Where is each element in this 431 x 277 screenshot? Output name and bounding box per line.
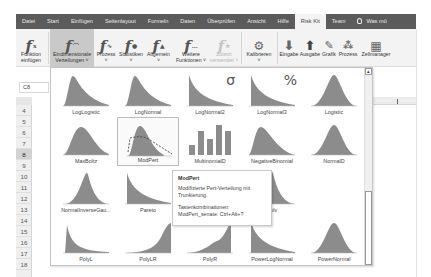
tab-team[interactable]: Team bbox=[326, 14, 352, 29]
tab-ansicht[interactable]: Ansicht bbox=[241, 14, 271, 29]
row-header-5[interactable]: 5 bbox=[16, 116, 32, 127]
row-header-18[interactable]: 18 bbox=[16, 259, 32, 270]
row-header-12[interactable]: 12 bbox=[16, 193, 32, 204]
gallery-item-label: NormalD bbox=[303, 158, 365, 164]
label: Ausgabe bbox=[299, 51, 321, 57]
funktion-einfuegen-button[interactable]: fx Funktion einfügen bbox=[16, 29, 46, 67]
eingabe-button[interactable]: ⬇ Eingabe bbox=[279, 29, 299, 67]
gallery-item-normalinversegau[interactable]: NormalInverseGau... bbox=[55, 166, 117, 215]
excel-window: Datei Start Einfügen Seitenlayout Formel… bbox=[0, 0, 431, 277]
prozess-function-button[interactable]: f∿ Prozess ˅ bbox=[95, 29, 117, 67]
divider bbox=[277, 32, 278, 64]
row-header-16[interactable]: 16 bbox=[16, 237, 32, 248]
parameter-glyph-icon: σ bbox=[226, 72, 235, 88]
distribution-function-icon: f⌒ bbox=[50, 29, 94, 49]
gallery-item-polyl[interactable]: PolyL bbox=[55, 215, 117, 264]
distribution-thumbnail-icon bbox=[123, 219, 173, 255]
row-header-6[interactable]: 6 bbox=[16, 127, 32, 138]
grafik-button[interactable]: ✎ Grafik bbox=[321, 29, 337, 67]
tab-daten[interactable]: Daten bbox=[174, 14, 201, 29]
distribution-thumbnail-icon bbox=[124, 122, 174, 158]
row-header-15[interactable]: 15 bbox=[16, 226, 32, 237]
tooltip-modpert: ModPert Modifizierte Pert-Verteilung mit… bbox=[172, 170, 272, 226]
row-header-10[interactable]: 10 bbox=[16, 171, 32, 182]
gallery-item-maxboltz[interactable]: MaxBoltz bbox=[55, 117, 117, 166]
column-header-strip bbox=[372, 97, 416, 105]
row-header-14[interactable]: 14 bbox=[16, 215, 32, 226]
label: Prozess bbox=[337, 51, 359, 57]
gallery-item-logistic[interactable]: Logistic bbox=[303, 68, 365, 117]
distribution-thumbnail-icon bbox=[247, 121, 297, 157]
gallery-item-label: PowerNormal bbox=[303, 256, 365, 262]
allgemein-button[interactable]: f▲ Allgemein ˅ bbox=[145, 29, 172, 67]
gallery-item-pareto[interactable]: Pareto bbox=[117, 166, 179, 215]
ribbon-tab-bar: Datei Start Einfügen Seitenlayout Formel… bbox=[16, 14, 416, 29]
gallery-item-label: PowerLogNormal bbox=[241, 256, 303, 262]
gallery-item-normald[interactable]: NormalD bbox=[303, 117, 365, 166]
row-header-7[interactable]: 7 bbox=[16, 138, 32, 149]
process-function-icon: f∿ bbox=[95, 29, 117, 49]
tab-start[interactable]: Start bbox=[41, 14, 65, 29]
row-header-13[interactable]: 13 bbox=[16, 204, 32, 215]
select-all-corner[interactable] bbox=[16, 97, 32, 105]
statistiken-button[interactable]: f● Statistiken ˅ bbox=[117, 29, 145, 67]
label: Zellmanager bbox=[359, 51, 393, 57]
eindimensionale-verteilungen-button[interactable]: f⌒ Eindimensionale Verteilungen ˅ bbox=[50, 29, 94, 67]
zuletzt-verwendet-button[interactable]: f★ Zuletzt verwendet ˅ bbox=[209, 29, 239, 67]
gallery-item-negativebinomial[interactable]: NegativeBinomial bbox=[241, 117, 303, 166]
gallery-item-modpert[interactable]: ModPert bbox=[117, 117, 179, 166]
gallery-item-empty bbox=[303, 166, 365, 215]
distribution-thumbnail-icon bbox=[309, 72, 359, 108]
gallery-item-label: PolyLR bbox=[117, 256, 179, 262]
tab-hilfe[interactable]: Hilfe bbox=[272, 14, 295, 29]
label: ˅ bbox=[244, 57, 274, 63]
parameter-glyph-icon: % bbox=[284, 72, 297, 88]
tab-risk-kit[interactable]: Risk Kit bbox=[295, 14, 326, 29]
column-divider bbox=[397, 99, 398, 104]
label: Funktionen ˅ bbox=[174, 57, 208, 63]
gallery-item-label: MaxBoltz bbox=[55, 158, 117, 164]
gallery-item-lognormal3[interactable]: %LogNormal3 bbox=[241, 68, 303, 117]
tab-einfuegen[interactable]: Einfügen bbox=[65, 14, 99, 29]
distribution-thumbnail-icon bbox=[61, 170, 111, 206]
label: Eingabe bbox=[279, 51, 299, 57]
gallery-scrollbar[interactable]: ▴ bbox=[364, 68, 372, 265]
gallery-item-powernormal[interactable]: PowerNormal bbox=[303, 215, 365, 264]
name-box[interactable]: C8 bbox=[19, 82, 49, 93]
tab-formeln[interactable]: Formeln bbox=[142, 14, 175, 29]
general-function-icon: f▲ bbox=[145, 29, 172, 49]
divider bbox=[48, 32, 49, 64]
distribution-thumbnail-icon bbox=[61, 121, 111, 157]
zellmanager-button[interactable]: ▦ Zellmanager bbox=[359, 29, 393, 67]
tooltip-shortcut: ModPert_senate: Ctrl+Alt+? bbox=[178, 211, 266, 218]
scroll-up-button[interactable]: ▴ bbox=[365, 68, 372, 75]
gallery-item-label: NegativeBinomial bbox=[241, 158, 303, 164]
tab-datei[interactable]: Datei bbox=[16, 14, 41, 29]
label: verwendet ˅ bbox=[209, 57, 239, 63]
gallery-item-loglogistic[interactable]: LogLogistic bbox=[55, 68, 117, 117]
statistics-icon: f● bbox=[117, 29, 145, 49]
row-header-17[interactable]: 17 bbox=[16, 248, 32, 259]
gallery-item-label: LogNormal bbox=[117, 109, 179, 115]
ausgabe-button[interactable]: ⬆ Ausgabe bbox=[299, 29, 321, 67]
gallery-item-multinomiald[interactable]: MultinomialD bbox=[179, 117, 241, 166]
arrow-down-icon: ⬇ bbox=[279, 29, 299, 49]
weitere-funktionen-button[interactable]: f… Weitere Funktionen ˅ bbox=[174, 29, 208, 67]
row-header-9[interactable]: 9 bbox=[16, 160, 32, 171]
ribbon: fx Funktion einfügen f⌒ Eindimensionale … bbox=[16, 29, 416, 67]
gallery-item-lognormal[interactable]: LogNormal bbox=[117, 68, 179, 117]
prozess-button[interactable]: ⁂ Prozess bbox=[337, 29, 359, 67]
distribution-thumbnail-icon bbox=[61, 219, 111, 255]
tab-seitenlayout[interactable]: Seitenlayout bbox=[99, 14, 142, 29]
recent-functions-icon: f★ bbox=[209, 29, 239, 49]
tab-ueberpruefen[interactable]: Überprüfen bbox=[201, 14, 241, 29]
kalibrieren-button[interactable]: ⚙ Kalibrieren ˅ bbox=[244, 29, 274, 67]
gallery-item-label: ModPert bbox=[118, 157, 178, 163]
row-header-11[interactable]: 11 bbox=[16, 182, 32, 193]
row-header-8[interactable]: 8 bbox=[16, 149, 32, 160]
tell-me-search[interactable]: Was mö bbox=[351, 14, 392, 29]
gallery-item-polylr[interactable]: PolyLR bbox=[117, 215, 179, 264]
scrollbar-thumb[interactable] bbox=[365, 191, 372, 265]
row-header-4[interactable]: 4 bbox=[16, 105, 32, 116]
gallery-item-lognormal2[interactable]: σLogNormal2 bbox=[179, 68, 241, 117]
